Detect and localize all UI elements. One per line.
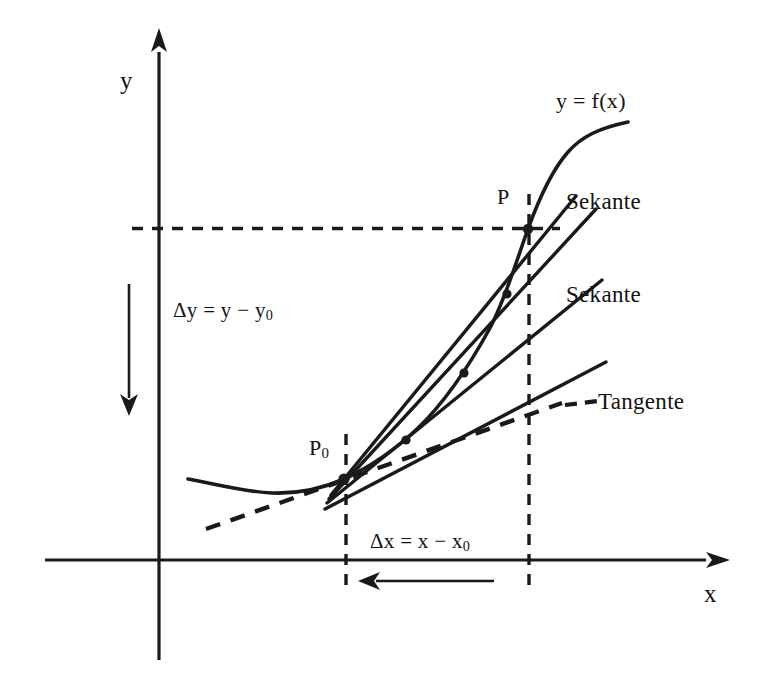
delta-y-label: Δy = y − y0 (173, 300, 273, 322)
delta-y-arrow-group (120, 284, 138, 416)
y-axis-arrowhead (151, 28, 167, 52)
delta-x-label: Δx = x − x0 (370, 531, 470, 553)
curve-point-3 (401, 435, 410, 444)
secant-lines-group (325, 196, 606, 509)
x-axis-arrowhead (706, 552, 730, 568)
diagram-canvas (0, 0, 766, 700)
delta-y-label-sub: 0 (266, 307, 273, 323)
point-P0-label-sub: 0 (322, 445, 330, 461)
function-label: y = f(x) (556, 90, 626, 112)
secant-line-2 (329, 209, 596, 499)
delta-x-arrow-group (358, 572, 494, 590)
tangente-leader-dash (565, 401, 598, 405)
delta-y-label-main: Δy = y − y (173, 298, 266, 322)
delta-x-label-main: Δx = x − x (370, 529, 463, 553)
point-P-label: P (497, 186, 510, 208)
secant-upper-label: Sekante (566, 190, 641, 213)
derivative-diagram: y x y = f(x) P P0 Sekante Sekante Tangen… (0, 0, 766, 700)
x-axis-label: x (704, 581, 717, 606)
y-axis-label: y (120, 68, 133, 93)
curve-point-1 (502, 289, 511, 298)
secant-line-3 (327, 280, 602, 503)
helper-lines-group (132, 194, 560, 594)
point-P0 (338, 473, 349, 484)
tangent-label: Tangente (598, 390, 684, 413)
curve-point-2 (459, 368, 468, 377)
secant-line-1 (331, 196, 576, 495)
tangent-line (206, 403, 562, 529)
delta-x-label-sub: 0 (463, 538, 470, 554)
point-P0-label-main: P (309, 435, 322, 460)
point-P0-label: P0 (309, 437, 329, 461)
tangente-leader-group (565, 401, 598, 405)
point-P (523, 224, 533, 234)
secant-lower-label: Sekante (566, 283, 641, 306)
tangent-line-group (206, 403, 562, 529)
secant-line-4 (325, 362, 606, 509)
